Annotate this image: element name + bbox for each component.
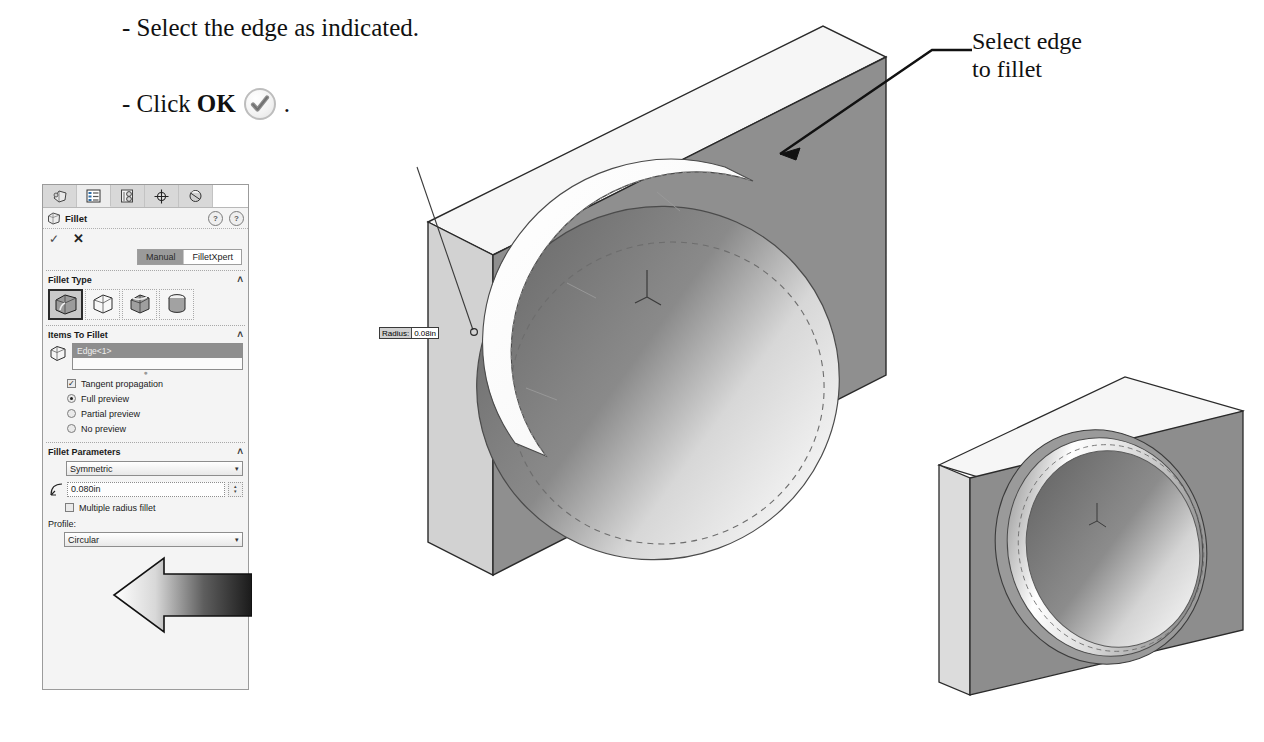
- selection-item-edge1[interactable]: Edge<1>: [73, 344, 242, 358]
- full-preview-label: Full preview: [81, 394, 129, 404]
- partial-preview-label: Partial preview: [81, 409, 140, 419]
- face-fillet-icon[interactable]: [122, 289, 157, 320]
- symmetry-row: Symmetric ▾: [43, 459, 248, 478]
- chevron-down-icon[interactable]: ▾: [235, 536, 239, 544]
- select-edge-annotation-line1: Select edge: [972, 28, 1082, 56]
- panel-help-group: ? ?: [208, 211, 244, 226]
- radius-row: 0.080in ▴ ▾: [43, 478, 248, 500]
- tangent-propagation-label: Tangent propagation: [81, 379, 163, 389]
- spinner-down-icon[interactable]: ▾: [234, 489, 237, 494]
- instruction-line-2-prefix: - Click: [122, 90, 191, 118]
- no-preview-radio[interactable]: [67, 424, 76, 433]
- multiple-radius-checkbox[interactable]: [65, 503, 74, 512]
- display-sphere-icon: [188, 189, 203, 203]
- variable-size-fillet-icon[interactable]: [85, 289, 120, 320]
- panel-cancel-button[interactable]: ✕: [73, 232, 84, 245]
- fillet-mode-group: Manual FilletXpert: [137, 249, 242, 265]
- divider-2: [46, 325, 245, 326]
- fillet-type-section-label: Fillet Type: [48, 275, 92, 285]
- panel-ok-button[interactable]: ✓: [49, 233, 59, 245]
- instruction-ok-word: OK: [197, 90, 236, 118]
- dimxpert-manager-tab[interactable]: [145, 185, 179, 207]
- partial-preview-radio[interactable]: [67, 409, 76, 418]
- symmetry-dropdown-value: Symmetric: [70, 464, 235, 474]
- panel-title-bar: Fillet ? ?: [43, 208, 248, 229]
- multiple-radius-label: Multiple radius fillet: [79, 503, 156, 513]
- block-with-filleted-cavity-result: [925, 375, 1255, 710]
- configuration-manager-tab[interactable]: [111, 185, 145, 207]
- select-edge-annotation: Select edge to fillet: [972, 28, 1082, 84]
- property-manager-tab[interactable]: [77, 185, 111, 207]
- feature-manager-tab[interactable]: [43, 185, 77, 207]
- items-to-fillet-section-label: Items To Fillet: [48, 330, 108, 340]
- manual-mode-button[interactable]: Manual: [138, 250, 185, 264]
- edge-selection-icon: [48, 343, 68, 363]
- full-round-fillet-icon[interactable]: [159, 289, 194, 320]
- partial-preview-option[interactable]: Partial preview: [43, 406, 248, 421]
- tangent-propagation-option[interactable]: ✓ Tangent propagation: [43, 376, 248, 391]
- symmetry-dropdown[interactable]: Symmetric ▾: [66, 461, 243, 476]
- display-manager-tab[interactable]: [179, 185, 213, 207]
- constant-size-fillet-icon[interactable]: [48, 289, 83, 320]
- profile-dropdown[interactable]: Circular ▾: [64, 532, 243, 547]
- property-list-icon: [86, 189, 101, 203]
- fillet-property-manager-panel: Fillet ? ? ✓ ✕ Manual FilletXpert Fillet…: [42, 184, 249, 690]
- radius-dimension-icon: [48, 481, 64, 497]
- profile-dropdown-value: Circular: [68, 535, 235, 545]
- instruction-block: - Select the edge as indicated. - Click …: [122, 14, 419, 120]
- chevron-up-icon[interactable]: ˄: [237, 274, 243, 285]
- radius-callout-value[interactable]: 0.08in: [412, 328, 438, 338]
- instruction-line-2-suffix: .: [284, 90, 290, 118]
- multiple-radius-option[interactable]: Multiple radius fillet: [43, 500, 248, 515]
- profile-label: Profile:: [43, 515, 248, 530]
- instruction-line-1-text: - Select the edge as indicated.: [122, 14, 419, 42]
- select-edge-annotation-line2: to fillet: [972, 56, 1082, 84]
- property-manager-tab-strip: [43, 185, 248, 208]
- radius-callout[interactable]: Radius: 0.08in: [379, 327, 439, 339]
- radius-callout-label: Radius:: [380, 328, 412, 338]
- tab-strip-filler: [213, 185, 248, 207]
- fillet-feature-icon: [47, 212, 61, 225]
- no-preview-option[interactable]: No preview: [43, 421, 248, 436]
- tangent-propagation-checkbox[interactable]: ✓: [67, 379, 76, 388]
- radius-input-value: 0.080in: [71, 484, 101, 494]
- checkmark-circle-icon: [244, 88, 276, 120]
- selection-listbox[interactable]: Edge<1>: [72, 343, 243, 370]
- panel-title: Fillet: [65, 213, 87, 224]
- dimxpert-target-icon: [154, 189, 169, 204]
- full-preview-radio[interactable]: [67, 394, 76, 403]
- selection-empty-row[interactable]: [73, 358, 242, 369]
- chevron-up-icon[interactable]: ˄: [237, 446, 243, 457]
- panel-confirm-row: ✓ ✕: [43, 229, 248, 247]
- no-preview-label: No preview: [81, 424, 126, 434]
- fillet-parameters-section-label: Fillet Parameters: [48, 447, 121, 457]
- divider-3: [46, 442, 245, 443]
- profile-row: Circular ▾: [43, 530, 248, 549]
- configuration-icon: [120, 189, 135, 203]
- radius-stepper[interactable]: ▴ ▾: [228, 482, 243, 497]
- fillet-mode-row: Manual FilletXpert: [43, 247, 248, 269]
- instruction-line-2: - Click OK .: [122, 88, 419, 120]
- chevron-up-icon[interactable]: ˄: [237, 329, 243, 340]
- radius-input[interactable]: 0.080in: [67, 482, 225, 497]
- items-to-fillet-row: Edge<1>: [43, 342, 248, 370]
- filletxpert-mode-button[interactable]: FilletXpert: [184, 250, 241, 264]
- divider-1: [46, 270, 245, 271]
- fillet-type-section-header[interactable]: Fillet Type ˄: [43, 272, 248, 287]
- help-question-icon[interactable]: ?: [229, 211, 244, 226]
- instruction-line-1: - Select the edge as indicated.: [122, 14, 419, 42]
- fillet-parameters-section-header[interactable]: Fillet Parameters ˄: [43, 444, 248, 459]
- chevron-down-icon[interactable]: ▾: [235, 465, 239, 473]
- full-preview-option[interactable]: Full preview: [43, 391, 248, 406]
- block-with-spherical-cavity-preview: [405, 15, 890, 695]
- help-question-pin-icon[interactable]: ?: [208, 211, 223, 226]
- items-to-fillet-section-header[interactable]: Items To Fillet ˄: [43, 327, 248, 342]
- feature-tree-icon: [52, 189, 68, 204]
- fillet-type-button-row: [43, 287, 248, 324]
